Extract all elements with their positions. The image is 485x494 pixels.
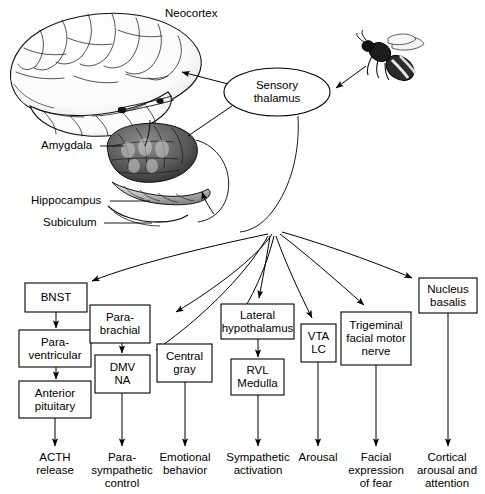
label-amygdala: Amygdala [41, 139, 92, 152]
label-subiculum: Subiculum [43, 216, 97, 229]
outcome-facial-expression-of-fear: Facialexpressionof fear [340, 451, 412, 490]
outcome-arousal: Arousal [288, 451, 348, 464]
box-label-lateral-hypothalamus[interactable]: Lateralhypothalamus [221, 304, 294, 339]
brain-illustration [10, 13, 201, 136]
box-label-nucleus-basalis[interactable]: Nucleusbasalis [419, 278, 477, 313]
outcome-cortical-arousal-attention: Corticalarousal andattention [408, 451, 485, 490]
edge-hippocampal-sweep [196, 140, 229, 222]
bee-icon [357, 30, 424, 86]
edge-to-parabrachial [176, 234, 272, 312]
edge-to-lateral-hypothalamus [259, 236, 270, 298]
box-label-dmv-na[interactable]: DMVNA [95, 355, 150, 393]
node-label-sensory-thalamus: Sensorythalamus [224, 68, 330, 116]
figure-canvas: Neocortex Amygdala Hippocampus Subiculum… [0, 0, 485, 494]
box-label-bnst[interactable]: BNST [25, 283, 87, 312]
edge-thalamus-sweep [240, 116, 298, 232]
box-label-paraventricular[interactable]: Para-ventricular [19, 330, 91, 367]
box-label-central-gray[interactable]: Centralgray [157, 344, 212, 382]
label-hippocampus: Hippocampus [31, 194, 101, 207]
amygdala-hippocampus-illustration [107, 123, 214, 226]
outcome-emotional-behavior: Emotionalbehavior [145, 451, 225, 477]
box-label-parabrachial[interactable]: Para-brachial [90, 305, 150, 343]
edge-bee-to-thalamus [336, 66, 366, 88]
box-label-trigeminal[interactable]: Trigeminalfacial motornerve [341, 312, 411, 365]
box-label-rvl-medulla[interactable]: RVLMedulla [231, 359, 284, 395]
box-label-anterior-pituitary[interactable]: Anteriorpituitary [19, 381, 91, 418]
label-neocortex: Neocortex [165, 7, 217, 20]
box-label-vta-lc[interactable]: VTALC [301, 324, 336, 362]
edge-to-nucleus-basalis [282, 232, 412, 278]
edge-to-bnst [92, 234, 268, 281]
